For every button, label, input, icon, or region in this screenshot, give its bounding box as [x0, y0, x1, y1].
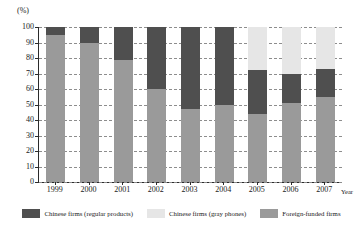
bar-segment	[46, 35, 65, 182]
legend-item: Foreign-funded firms	[260, 209, 340, 218]
bar-segment	[114, 27, 133, 60]
chart-legend: Chinese firms (regular products)Chinese …	[0, 203, 363, 223]
y-tick-mark-20	[35, 151, 38, 152]
bar-segment	[282, 103, 301, 182]
y-tick-label-10: 10	[4, 163, 34, 171]
x-tick-mark-2007	[324, 182, 325, 185]
bar-2003	[181, 27, 200, 182]
legend-item: Chinese firms (regular products)	[22, 209, 133, 218]
y-tick-mark-50	[35, 105, 38, 106]
y-tick-mark-60	[35, 89, 38, 90]
bar-segment	[147, 27, 166, 89]
y-tick-mark-40	[35, 120, 38, 121]
y-tick-label-40: 40	[4, 116, 34, 124]
y-tick-mark-30	[35, 136, 38, 137]
bar-segment	[80, 27, 99, 43]
bar-segment	[181, 27, 200, 109]
x-tick-mark-2001	[122, 182, 123, 185]
y-axis-unit-label: (%)	[17, 6, 29, 16]
x-tick-mark-2005	[257, 182, 258, 185]
bar-segment	[215, 27, 234, 105]
y-axis-ticks: 1009080706050403020100	[0, 27, 34, 182]
bar-2000	[80, 27, 99, 182]
y-tick-label-30: 30	[4, 132, 34, 140]
bar-segment	[181, 109, 200, 182]
legend-swatch	[22, 209, 40, 218]
x-axis-ticks: 199920002001200220032004200520062007	[38, 185, 341, 197]
plot-area	[38, 27, 342, 183]
bar-2006	[282, 27, 301, 182]
bar-segment	[248, 70, 267, 113]
bar-1999	[46, 27, 65, 182]
legend-item: Chinese firms (gray phones)	[147, 209, 246, 218]
bar-segment	[147, 89, 166, 182]
legend-swatch	[147, 209, 165, 218]
legend-swatch	[260, 209, 278, 218]
y-tick-label-90: 90	[4, 39, 34, 47]
bar-2005	[248, 27, 267, 182]
bar-segment	[316, 97, 335, 182]
y-tick-label-70: 70	[4, 70, 34, 78]
x-tick-label-2007: 2007	[304, 185, 344, 195]
y-tick-mark-70	[35, 74, 38, 75]
y-tick-label-100: 100	[4, 23, 34, 31]
bar-segment	[248, 27, 267, 70]
x-tick-mark-2006	[291, 182, 292, 185]
bar-2002	[147, 27, 166, 182]
y-tick-mark-90	[35, 43, 38, 44]
bar-2004	[215, 27, 234, 182]
bar-segment	[248, 114, 267, 182]
y-tick-label-80: 80	[4, 54, 34, 62]
x-tick-mark-2002	[156, 182, 157, 185]
bar-segment	[215, 105, 234, 183]
y-tick-mark-80	[35, 58, 38, 59]
x-tick-mark-2004	[223, 182, 224, 185]
bar-segment	[316, 69, 335, 97]
bar-series-group	[39, 27, 342, 182]
bar-segment	[46, 27, 65, 35]
y-tick-mark-10	[35, 167, 38, 168]
legend-label: Chinese firms (gray phones)	[169, 209, 246, 218]
stacked-bar-chart: (%) 1009080706050403020100 1999200020012…	[0, 0, 363, 232]
y-tick-label-20: 20	[4, 147, 34, 155]
y-tick-mark-0	[35, 182, 38, 183]
x-tick-mark-1999	[55, 182, 56, 185]
bar-2007	[316, 27, 335, 182]
x-axis-title: Year	[341, 188, 353, 196]
y-tick-label-50: 50	[4, 101, 34, 109]
bar-segment	[80, 43, 99, 183]
bar-segment	[282, 74, 301, 103]
legend-label: Chinese firms (regular products)	[44, 209, 133, 218]
y-tick-mark-100	[35, 27, 38, 28]
bar-segment	[282, 27, 301, 74]
bar-2001	[114, 27, 133, 182]
y-tick-label-0: 0	[4, 178, 34, 186]
bar-segment	[316, 27, 335, 69]
y-tick-label-60: 60	[4, 85, 34, 93]
legend-label: Foreign-funded firms	[282, 209, 340, 218]
gridline-0	[39, 182, 342, 183]
bar-segment	[114, 60, 133, 182]
x-tick-mark-2000	[89, 182, 90, 185]
x-tick-mark-2003	[190, 182, 191, 185]
